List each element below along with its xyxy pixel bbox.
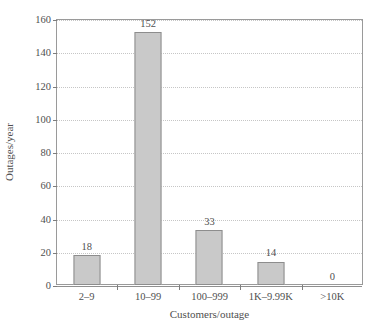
bar-value-label: 152 [140,19,156,30]
y-axis-tick-label: 20 [41,248,52,259]
x-axis-tick-label: 2–9 [79,292,95,303]
gridline [57,286,362,287]
bar[interactable] [257,262,284,285]
x-axis-tick-label: 1K–9.99K [249,292,293,303]
x-axis-tick-label: 100–999 [191,292,228,303]
y-axis-tick-mark [53,286,57,287]
x-axis-tick-mark [240,285,241,290]
y-axis-tick-label: 140 [35,48,51,59]
bar-slot: 152 [117,19,178,285]
bar[interactable] [196,230,223,285]
x-axis-tick-mark [179,285,180,290]
bar-slot: 18 [56,19,117,285]
y-axis-tick-label: 80 [41,148,52,159]
y-axis-tick-label: 60 [41,181,52,192]
bar[interactable] [73,255,100,285]
y-axis-tick-label: 100 [35,115,51,126]
bar-value-label: 14 [266,248,277,259]
x-axis-title: Customers/outage [56,309,363,320]
y-axis-tick-label: 120 [35,81,51,92]
x-axis-tick-label: 10–99 [135,292,161,303]
x-axis-tick-label: >10K [320,292,344,303]
bar-slot: 14 [240,19,301,285]
bar-value-label: 33 [204,217,215,228]
y-axis-tick-label: 0 [46,281,51,292]
x-axis-tick-mark [117,285,118,290]
bar-slot: 0 [302,19,363,285]
y-axis-title: Outages/year [2,19,16,285]
bar[interactable] [135,32,162,285]
y-axis-tick-label: 160 [35,15,51,26]
x-axis-tick-mark [302,285,303,290]
bar-value-label: 18 [81,242,92,253]
bar-chart: 020406080100120140160 1815233140 2–910–9… [0,0,378,332]
y-axis-tick-label: 40 [41,214,52,225]
bars-group: 1815233140 [56,19,363,285]
bar-slot: 33 [179,19,240,285]
bar-value-label: 0 [330,272,335,283]
